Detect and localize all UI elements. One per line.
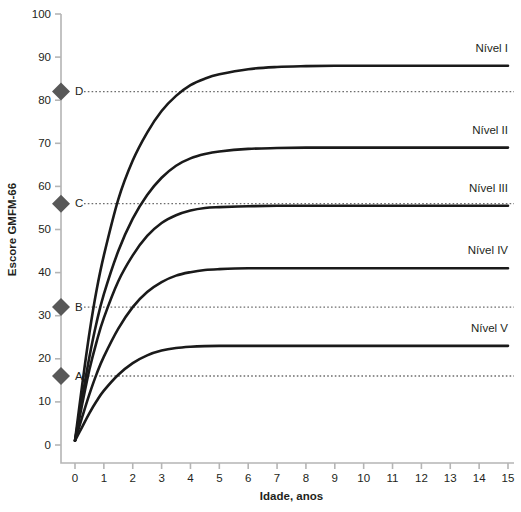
x-axis-tick-label: 10 — [357, 472, 370, 484]
x-axis-tick-label: 9 — [332, 472, 338, 484]
y-axis-tick-label: 20 — [38, 352, 51, 364]
chart-axes — [61, 14, 514, 463]
x-axis-tick-label: 13 — [444, 472, 457, 484]
reference-marker-label-d: D — [75, 85, 83, 97]
curve-nível-iii — [75, 206, 508, 441]
y-axis-tick-label: 40 — [38, 266, 51, 278]
x-axis-tick-label: 4 — [187, 472, 194, 484]
x-axis-tick-label: 5 — [216, 472, 222, 484]
y-axis-title: Escore GMFM-66 — [6, 183, 18, 276]
x-axis-tick-label: 0 — [72, 472, 78, 484]
y-axis-tick-label: 100 — [32, 8, 51, 20]
curve-nível-i — [75, 66, 508, 441]
series-label-nível-iii: Nível III — [469, 182, 508, 194]
x-axis-tick-label: 6 — [245, 472, 251, 484]
y-axis-tick-label: 80 — [38, 94, 51, 106]
chart-canvas: 0102030405060708090100012345678910111213… — [0, 0, 521, 512]
x-axis-tick-label: 2 — [130, 472, 136, 484]
y-axis-tick-label: 90 — [38, 51, 51, 63]
gmfm-growth-curve-chart: 0102030405060708090100012345678910111213… — [0, 0, 521, 512]
series-label-nível-v: Nível V — [471, 322, 508, 334]
x-axis-tick-label: 3 — [158, 472, 164, 484]
x-axis-tick-label: 1 — [101, 472, 107, 484]
x-axis-tick-label: 12 — [415, 472, 428, 484]
y-axis-tick-label: 70 — [38, 137, 51, 149]
y-axis-tick-label: 0 — [45, 439, 51, 451]
x-axis-tick-label: 11 — [387, 472, 399, 484]
reference-marker-label-c: C — [75, 197, 83, 209]
curve-nível-iv — [75, 268, 508, 440]
series-label-nível-i: Nível I — [475, 42, 508, 54]
reference-marker-a — [52, 367, 70, 385]
y-axis-tick-label: 30 — [38, 309, 51, 321]
x-axis-title: Idade, anos — [260, 490, 323, 502]
x-axis-tick-label: 14 — [473, 472, 486, 484]
reference-marker-c — [52, 195, 70, 213]
x-axis-tick-label: 15 — [502, 472, 515, 484]
series-label-nível-ii: Nível II — [472, 124, 508, 136]
curve-nível-v — [75, 346, 508, 441]
y-axis-tick-label: 60 — [38, 180, 51, 192]
x-axis-tick-label: 7 — [274, 472, 280, 484]
reference-marker-label-b: B — [75, 301, 83, 313]
y-axis-tick-label: 10 — [38, 395, 51, 407]
series-label-nível-iv: Nível IV — [468, 244, 509, 256]
reference-marker-b — [52, 298, 70, 316]
curve-nível-ii — [75, 148, 508, 441]
x-axis-tick-label: 8 — [303, 472, 309, 484]
y-axis-tick-label: 50 — [38, 223, 51, 235]
reference-marker-d — [52, 83, 70, 101]
